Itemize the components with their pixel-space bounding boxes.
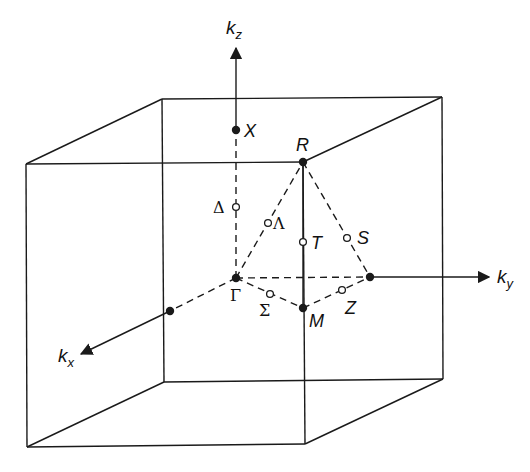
label-gamma: Γ — [230, 286, 241, 305]
label-t: T — [311, 233, 324, 253]
label-lambda: Λ — [272, 214, 285, 233]
cube-edge — [164, 379, 443, 382]
cube-edge — [27, 382, 164, 447]
marker-z — [339, 287, 346, 294]
cube-edge — [303, 97, 442, 162]
label-r: R — [296, 135, 309, 155]
kz-label: kz — [226, 17, 243, 42]
point-gamma — [232, 274, 240, 282]
point-x — [232, 126, 240, 134]
cube-edge — [305, 379, 443, 444]
marker-delta — [233, 204, 240, 211]
point-m — [299, 304, 307, 312]
marker-t — [300, 239, 307, 246]
cube-edge — [26, 162, 303, 164]
axes — [81, 48, 489, 354]
cube-edge — [442, 97, 443, 379]
cube-edge — [26, 164, 27, 447]
label-s: S — [357, 228, 369, 248]
r-ky-path — [303, 162, 370, 277]
marker-s — [344, 235, 351, 242]
cube-edge — [27, 444, 305, 447]
point-ky-boundary — [366, 273, 374, 281]
point-r — [299, 158, 307, 166]
cube — [26, 97, 443, 447]
label-m: M — [309, 311, 324, 331]
ky-label: ky — [497, 266, 515, 291]
marker-sigma — [267, 291, 274, 298]
symmetry-line-markers — [233, 204, 351, 298]
kx-axis — [81, 311, 170, 354]
cube-edge — [162, 99, 164, 382]
label-delta: Δ — [213, 198, 225, 217]
marker-lambda — [265, 220, 272, 227]
point-kx-boundary — [166, 307, 174, 315]
cube-edge — [162, 97, 442, 99]
gamma-kx-path — [170, 278, 236, 311]
m-ky-path — [303, 277, 370, 308]
cube-edge — [26, 99, 162, 164]
brillouin-zone-diagram: kz ky kx X R Γ M Δ Λ T S Σ Z — [0, 0, 530, 472]
label-x: X — [243, 121, 257, 141]
kx-label: kx — [58, 345, 75, 370]
label-sigma: Σ — [259, 301, 270, 320]
label-z: Z — [344, 298, 357, 318]
